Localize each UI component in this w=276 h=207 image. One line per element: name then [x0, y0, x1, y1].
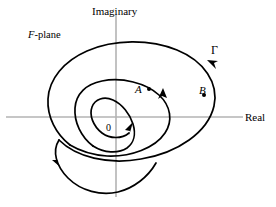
complex-plane-figure: Imaginary Real F-plane Γ A B 0: [0, 0, 276, 207]
point-b-label: B: [199, 85, 206, 96]
point-a-dot: [147, 87, 151, 91]
contour-arrowheads: [52, 60, 218, 166]
plane-label-suffix: -plane: [34, 29, 60, 40]
point-a-label: A: [135, 84, 142, 95]
plane-label: F-plane: [28, 30, 61, 41]
origin-label: 0: [106, 123, 111, 133]
contour-inner-turn: [91, 98, 134, 152]
contour-middle-turn: [70, 80, 170, 156]
real-axis-label: Real: [245, 112, 265, 123]
contour-label: Γ: [211, 44, 218, 56]
arrowhead-outer-upper: [207, 60, 218, 69]
imaginary-axis-label: Imaginary: [92, 6, 137, 17]
